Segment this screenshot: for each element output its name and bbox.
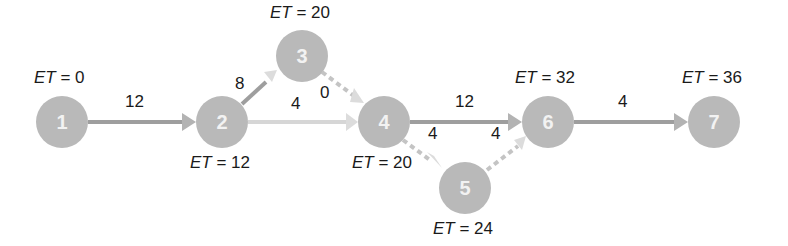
et-label-node-5: ET = 24 bbox=[433, 219, 493, 239]
et-prefix: ET bbox=[270, 3, 292, 22]
arrowhead-3-4 bbox=[350, 88, 364, 103]
et-prefix: ET bbox=[190, 153, 212, 172]
node-4-label: 4 bbox=[378, 111, 390, 133]
et-label-node-7: ET = 36 bbox=[682, 68, 742, 88]
edge-5-6 bbox=[487, 146, 518, 170]
arrowhead-4-6 bbox=[508, 113, 522, 131]
arrowhead-2-3 bbox=[264, 70, 277, 82]
et-prefix: ET bbox=[352, 153, 374, 172]
et-value: = 20 bbox=[378, 153, 412, 172]
node-2-label: 2 bbox=[216, 111, 227, 133]
et-value: = 36 bbox=[708, 68, 742, 87]
node-3-label: 3 bbox=[296, 45, 307, 67]
arrowhead-2-4 bbox=[346, 113, 358, 131]
duration-2-3: 8 bbox=[235, 74, 244, 94]
et-value: = 24 bbox=[459, 219, 493, 238]
et-label-node-1: ET = 0 bbox=[34, 68, 85, 88]
et-prefix: ET bbox=[515, 68, 537, 87]
et-label-node-4: ET = 20 bbox=[352, 153, 412, 173]
et-value: = 32 bbox=[541, 68, 575, 87]
network-diagram: 1 2 3 4 5 6 7 bbox=[0, 0, 788, 246]
duration-1-2: 12 bbox=[125, 92, 144, 112]
et-prefix: ET bbox=[433, 219, 455, 238]
node-5-label: 5 bbox=[459, 177, 470, 199]
et-value: = 0 bbox=[60, 68, 84, 87]
et-value: = 12 bbox=[216, 153, 250, 172]
node-2: 2 bbox=[196, 96, 248, 148]
node-3: 3 bbox=[276, 30, 328, 82]
duration-4-6: 12 bbox=[455, 92, 474, 112]
node-7-label: 7 bbox=[708, 111, 719, 133]
node-7: 7 bbox=[688, 96, 740, 148]
edge-2-3 bbox=[242, 82, 266, 104]
et-prefix: ET bbox=[34, 68, 56, 87]
et-label-node-2: ET = 12 bbox=[190, 153, 250, 173]
duration-4-5: 4 bbox=[428, 124, 437, 144]
arrowhead-4-5 bbox=[427, 152, 442, 168]
duration-2-4: 4 bbox=[291, 94, 300, 114]
node-6: 6 bbox=[522, 96, 574, 148]
node-5: 5 bbox=[439, 162, 491, 214]
et-value: = 20 bbox=[296, 3, 330, 22]
et-label-node-6: ET = 32 bbox=[515, 68, 575, 88]
node-6-label: 6 bbox=[542, 111, 553, 133]
et-prefix: ET bbox=[682, 68, 704, 87]
node-4: 4 bbox=[358, 96, 410, 148]
duration-5-6: 4 bbox=[491, 124, 500, 144]
et-label-node-3: ET = 20 bbox=[270, 3, 330, 23]
arrowhead-6-7 bbox=[674, 113, 688, 131]
duration-3-4: 0 bbox=[320, 83, 329, 103]
node-1: 1 bbox=[36, 96, 88, 148]
node-1-label: 1 bbox=[56, 111, 67, 133]
arrowhead-1-2 bbox=[182, 113, 196, 131]
duration-6-7: 4 bbox=[618, 92, 627, 112]
